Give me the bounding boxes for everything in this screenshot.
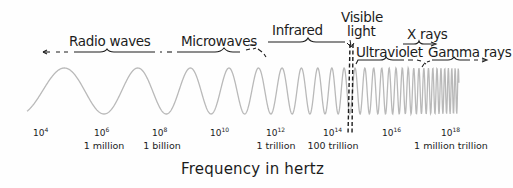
tick-power-label: 1014 bbox=[323, 127, 342, 138]
band-label-gamma: Gamma rays bbox=[428, 46, 511, 60]
tick-power-label: 104 bbox=[33, 127, 48, 138]
tick-word-label: 100 trillion bbox=[307, 141, 358, 151]
microwave-brace bbox=[167, 48, 266, 57]
spectrum-diagram: Radio wavesMicrowavesInfraredVisibleligh… bbox=[0, 0, 513, 188]
tick-power-label: 1018 bbox=[441, 127, 460, 138]
tick-word-label: 1 trillion bbox=[256, 141, 295, 151]
tick-power-label: 1012 bbox=[266, 127, 285, 138]
radio-brace bbox=[43, 49, 162, 54]
band-label-xray: X rays bbox=[407, 28, 448, 42]
band-label-ultraviolet: Ultraviolet bbox=[356, 46, 423, 60]
tick-word-label: 1 million bbox=[84, 141, 125, 151]
band-label-microwave: Microwaves bbox=[181, 35, 257, 49]
band-label-visible-2: light bbox=[347, 25, 375, 39]
tick-power-label: 1016 bbox=[382, 127, 401, 138]
axis-title: Frequency in hertz bbox=[181, 162, 324, 177]
band-label-radio: Radio waves bbox=[69, 35, 151, 49]
tick-power-label: 108 bbox=[152, 127, 167, 138]
tick-power-label: 1010 bbox=[210, 127, 229, 138]
infrared-brace bbox=[250, 38, 345, 45]
frequency-wave bbox=[27, 68, 459, 114]
band-label-infrared: Infrared bbox=[272, 24, 323, 38]
tick-word-label: 1 billion bbox=[143, 141, 181, 151]
tick-word-label: 1 million trillion bbox=[414, 141, 488, 151]
tick-power-label: 106 bbox=[94, 127, 109, 138]
visible-light-marker bbox=[348, 44, 353, 135]
